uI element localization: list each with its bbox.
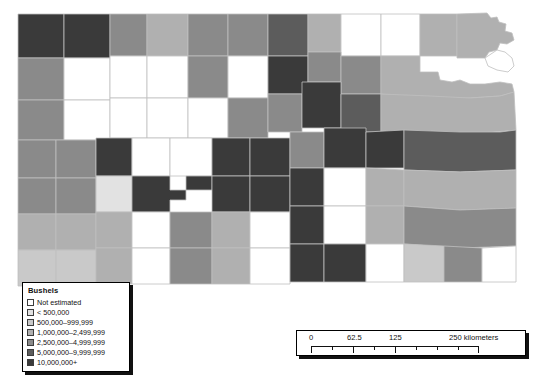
scalebar-label: 0 — [309, 333, 313, 342]
county-morris[interactable] — [366, 130, 404, 168]
county-sheridan[interactable] — [110, 56, 147, 98]
county-nemaha[interactable] — [420, 14, 457, 56]
county-washington[interactable] — [341, 14, 381, 56]
legend-row: < 500,000 — [27, 307, 125, 317]
county-allen-bourbon[interactable] — [404, 206, 516, 248]
legend-title: Bushels — [28, 286, 125, 296]
county-woodson[interactable] — [366, 206, 404, 244]
county-stevens[interactable] — [56, 250, 96, 286]
map-figure: Bushels Not estimated< 500,000500,000–99… — [0, 0, 540, 382]
county-stafford[interactable] — [212, 176, 250, 212]
county-ellis[interactable] — [188, 98, 228, 138]
scalebar-label: 125 — [389, 333, 402, 342]
county-decatur[interactable] — [110, 14, 147, 56]
legend-label: 5,000,000–9,999,999 — [37, 348, 105, 357]
county-rawlins[interactable] — [64, 14, 110, 58]
county-comanche[interactable] — [212, 248, 250, 284]
county-chautauqua[interactable] — [366, 244, 404, 282]
county-haskell[interactable] — [96, 212, 132, 248]
county-harper[interactable] — [290, 244, 324, 282]
legend-label: Not estimated — [37, 298, 81, 307]
county-lane[interactable] — [132, 138, 170, 176]
county-labette[interactable] — [444, 246, 482, 282]
county-shawnee-region[interactable] — [381, 92, 516, 134]
county-trego[interactable] — [147, 98, 188, 138]
map-scalebar: 062.5125250 kilometers — [296, 330, 526, 356]
legend-label: < 500,000 — [37, 308, 69, 317]
scalebar-label: 250 kilometers — [449, 333, 498, 342]
county-barton[interactable] — [250, 138, 290, 176]
county-osborne[interactable] — [228, 56, 268, 98]
county-hodgeman[interactable] — [132, 176, 186, 212]
county-pawnee[interactable] — [186, 176, 212, 190]
county-hamilton[interactable] — [18, 178, 56, 214]
scalebar-labels: 062.5125250 kilometers — [297, 333, 527, 344]
county-grant[interactable] — [56, 214, 96, 250]
county-morton[interactable] — [18, 250, 56, 286]
legend-row: 2,500,000–4,999,999 — [27, 337, 125, 347]
county-seward[interactable] — [96, 248, 132, 284]
county-butler[interactable] — [366, 168, 404, 206]
county-barber[interactable] — [250, 248, 290, 284]
county-montgomery[interactable] — [404, 244, 444, 282]
county-kearny[interactable] — [56, 178, 96, 214]
county-thomas[interactable] — [64, 58, 110, 100]
county-edwards[interactable] — [212, 212, 250, 248]
county-ford[interactable] — [170, 212, 212, 248]
map-legend: Bushels Not estimated< 500,000500,000–99… — [22, 282, 130, 372]
county-russell[interactable] — [228, 98, 268, 138]
county-gove[interactable] — [110, 98, 147, 138]
county-cherokee[interactable] — [482, 246, 516, 282]
county-sedgwick[interactable] — [290, 206, 324, 244]
county-republic[interactable] — [308, 14, 341, 52]
county-meade[interactable] — [132, 248, 170, 284]
county-cheyenne[interactable] — [18, 14, 64, 58]
county-greeley[interactable] — [18, 140, 56, 178]
county-clark[interactable] — [170, 248, 212, 284]
county-reno[interactable] — [250, 176, 290, 212]
county-ness[interactable] — [170, 138, 212, 176]
county-scott[interactable] — [96, 138, 132, 176]
county-rooks[interactable] — [188, 56, 228, 98]
county-lyon-osage[interactable] — [404, 130, 516, 172]
county-clay[interactable] — [341, 56, 381, 94]
county-cowley-area[interactable] — [324, 206, 366, 244]
county-greenwood-coffey[interactable] — [404, 170, 516, 210]
county-cloud[interactable] — [308, 52, 341, 82]
county-phillips[interactable] — [188, 14, 228, 56]
county-finney[interactable] — [96, 176, 132, 212]
county-graham[interactable] — [147, 56, 188, 98]
county-rush[interactable] — [212, 138, 250, 176]
legend-label: 2,500,000–4,999,999 — [37, 338, 105, 347]
county-norton[interactable] — [147, 14, 188, 56]
county-gray[interactable] — [132, 212, 170, 248]
county-ellsworth[interactable] — [290, 132, 324, 168]
legend-row: 10,000,000+ — [27, 357, 125, 367]
county-doniphan[interactable] — [485, 50, 514, 72]
legend-row: 1,000,000–2,499,999 — [27, 327, 125, 337]
county-ottawa[interactable] — [302, 82, 341, 128]
county-wichita[interactable] — [56, 140, 96, 178]
scalebar-tick — [478, 346, 479, 353]
county-wallace[interactable] — [18, 100, 64, 140]
county-sherman[interactable] — [18, 58, 64, 100]
county-polygons[interactable] — [18, 13, 516, 286]
county-harvey[interactable] — [324, 168, 366, 206]
legend-swatch-icon — [27, 309, 34, 316]
county-stanton[interactable] — [18, 214, 56, 250]
county-saline[interactable] — [324, 128, 366, 168]
scalebar-tick — [332, 346, 333, 350]
county-jewell[interactable] — [268, 14, 308, 56]
county-lincoln[interactable] — [268, 94, 302, 132]
county-dickinson[interactable] — [341, 94, 381, 132]
legend-swatch-icon — [27, 329, 34, 336]
county-sumner[interactable] — [324, 244, 366, 282]
county-mcpherson[interactable] — [290, 168, 324, 206]
legend-swatch-icon — [27, 319, 34, 326]
county-marshall[interactable] — [381, 14, 420, 56]
scalebar-tick — [353, 346, 354, 353]
county-brown[interactable] — [457, 13, 514, 58]
county-kingman[interactable] — [250, 212, 290, 248]
county-logan[interactable] — [64, 100, 110, 140]
county-smith[interactable] — [228, 14, 268, 56]
